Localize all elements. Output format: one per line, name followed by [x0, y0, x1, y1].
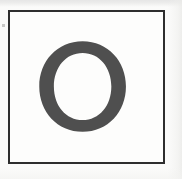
specimen-border-frame: O — [8, 10, 165, 164]
glyph-plate: O — [10, 12, 163, 162]
letter-o-text: O — [10, 12, 163, 162]
scan-artifact-dust-speck — [2, 24, 5, 27]
scan-artifact-bottom-shading — [0, 167, 182, 179]
scanned-page: O capital letter O, serif typeface — [0, 0, 182, 179]
scan-artifact-right-shading — [168, 0, 182, 179]
scan-artifact-top-band — [0, 0, 182, 7]
